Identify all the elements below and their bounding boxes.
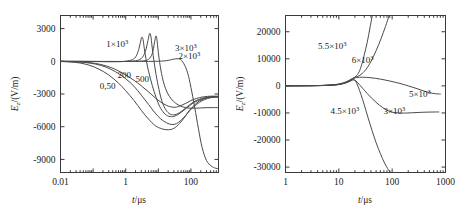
y-tick-label: -6000 [33, 122, 55, 132]
y-tick-label: 0 [51, 57, 56, 67]
right-plot-svg: 110100100020000100000-10000-20000-30000 … [236, 0, 473, 216]
left-plot-svg: 0.01110030000-3000-6000-9000 1×1033×1032… [0, 0, 236, 216]
axis-ticks-left [61, 16, 219, 173]
y-tick-label: 3000 [37, 24, 56, 34]
curve-label: 1×103 [106, 38, 128, 49]
x-axis-label-right: t/μs [358, 195, 372, 205]
x-tick-label: 1 [123, 177, 128, 187]
curve-label: 6×103 [352, 54, 374, 65]
x-tick-label: 100 [385, 177, 400, 187]
y-axis-label-left: Ez/(V/m) [10, 77, 21, 113]
y-tick-label: -20000 [254, 135, 281, 145]
y-tick-label: 10000 [257, 54, 281, 64]
x-axis-label-left: t/μs [132, 195, 146, 205]
curve-label: 5.5×103 [318, 40, 347, 51]
y-tick-label: -10000 [254, 108, 281, 118]
y-tick-label: 20000 [257, 27, 281, 37]
chart-panel-left: 0.01110030000-3000-6000-9000 1×1033×1032… [0, 0, 236, 216]
x-tick-label: 1000 [436, 177, 455, 187]
svg-text:Ez/(V/m): Ez/(V/m) [10, 77, 21, 113]
curve-label: 0,50 [100, 81, 116, 91]
y-tick-label: -3000 [33, 89, 55, 99]
figure-container: 0.01110030000-3000-6000-9000 1×1033×1032… [0, 0, 473, 216]
x-tick-label: 10 [334, 177, 344, 187]
x-tick-label: 1 [283, 177, 288, 187]
data-curve [61, 61, 219, 107]
curve-label: 2×103 [179, 50, 201, 61]
y-tick-label: -9000 [33, 155, 55, 165]
curve-label: 3×103 [383, 105, 405, 116]
svg-text:Ez/(V/m): Ez/(V/m) [236, 77, 246, 113]
data-curve [286, 79, 391, 172]
curve-label: 200 [117, 70, 131, 80]
y-axis-label-right: Ez/(V/m) [236, 77, 246, 113]
curve-label: 4.5×103 [331, 105, 360, 116]
curve-label: 5×103 [409, 88, 431, 99]
data-curve [61, 62, 219, 130]
plot-frame-left [61, 16, 219, 173]
y-tick-label: -30000 [254, 162, 281, 172]
curve-annotations-left: 1×1033×1032×1032005000,50 [100, 38, 201, 91]
x-tick-label: 0.01 [52, 177, 69, 187]
x-tick-label: 100 [184, 177, 199, 187]
chart-panel-right: 110100100020000100000-10000-20000-30000 … [236, 0, 473, 216]
data-curve [61, 61, 219, 124]
curve-label: 500 [135, 74, 149, 84]
y-tick-label: 0 [276, 81, 281, 91]
